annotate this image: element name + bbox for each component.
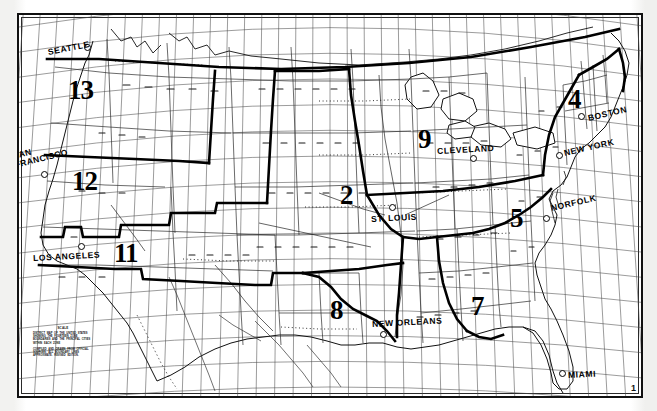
city-dot-seattle [84,44,91,51]
zone-number-8: 8 [330,297,343,324]
city-dot-miami [559,370,566,377]
city-dot-boston [578,113,585,120]
corner-page-mark: 1 [631,383,636,393]
zone-number-7: 7 [471,293,484,320]
map-root: SEATTLESANFRANCISCOLOS ANGELESST. LOUISC… [0,0,657,411]
city-dot-los-angeles [78,243,85,250]
legend-imprint-block: SCALE DISTRICT MAP OF THE UNITED STATES … [33,326,93,360]
legend-paragraph-2: COMPILED AND DRAWN FROM OFFICIAL SOURCES… [33,348,93,358]
zone-number-2: 2 [340,182,353,209]
zone-number-9: 9 [418,126,431,153]
zone-number-13: 13 [68,77,93,104]
map-neatline-frame: SEATTLESANFRANCISCOLOS ANGELESST. LOUISC… [17,13,643,398]
city-dot-new-orleans [380,331,387,338]
zone-number-12: 12 [72,168,97,195]
city-dot-new-york [556,152,563,159]
city-dot-san-francisco [41,171,48,178]
legend-title: SCALE [33,326,93,330]
zone-number-5: 5 [510,205,523,232]
zone-boundary-layer [19,15,641,396]
city-dot-st-louis [389,204,396,211]
zone-number-11: 11 [114,240,138,267]
zone-number-4: 4 [568,86,581,113]
legend-paragraph-1: DISTRICT MAP OF THE UNITED STATES SHOWIN… [33,332,93,345]
city-dot-cleveland [470,155,477,162]
city-dot-norfolk [543,215,550,222]
